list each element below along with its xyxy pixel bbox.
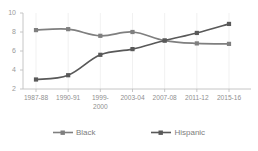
- y-tick-label: 4: [2, 66, 16, 74]
- chart-legend: Black Hispanic: [0, 128, 258, 146]
- legend-label-hispanic: Hispanic: [174, 128, 205, 137]
- x-tick-label: 2011-12: [180, 94, 214, 103]
- legend-swatch-black: [53, 128, 73, 137]
- y-tick-label: 2: [2, 85, 16, 93]
- y-tick-label: 8: [2, 28, 16, 36]
- legend-swatch-hispanic: [151, 128, 171, 137]
- axis-ticks: [20, 13, 229, 92]
- x-tick-label: 1999- 2000: [83, 94, 117, 111]
- y-tick-label: 6: [2, 47, 16, 55]
- x-tick-label: 2003-04: [116, 94, 150, 103]
- line-chart: 246810 1987-881990-911999- 20002003-0420…: [0, 0, 258, 151]
- x-tick-label: 1990-91: [51, 94, 85, 103]
- y-tick-label: 10: [2, 9, 16, 17]
- x-tick-label: 2007-08: [148, 94, 182, 103]
- legend-label-black: Black: [76, 128, 96, 137]
- legend-item-hispanic[interactable]: Hispanic: [151, 128, 205, 137]
- x-tick-label: 2015-16: [212, 94, 246, 103]
- legend-item-black[interactable]: Black: [53, 128, 96, 137]
- x-tick-label: 1987-88: [19, 94, 53, 103]
